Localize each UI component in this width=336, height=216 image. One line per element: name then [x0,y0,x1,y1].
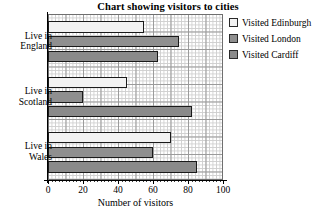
legend-swatch-icon [229,34,238,43]
x-axis-line [44,180,227,181]
legend-swatch-icon [229,50,238,59]
legend-item-label: Visited Cardiff [242,50,299,60]
bar [48,36,179,48]
bar [48,91,83,103]
chart-title: Chart showing visitors to cities [0,1,336,12]
chart-legend: Visited EdinburghVisited LondonVisited C… [229,15,335,63]
legend-item: Visited Edinburgh [229,15,335,30]
x-axis-tick-label: 20 [68,185,98,195]
bar [48,161,197,173]
legend-item: Visited Cardiff [229,47,335,62]
bar [48,147,153,159]
y-axis-category-label: Live in Scotland [0,86,52,107]
x-axis-tick-label: 40 [103,185,133,195]
legend-swatch-icon [229,18,238,27]
bar [48,51,158,63]
y-axis-category-label: Live in England [0,31,52,52]
x-axis-tick-label: 80 [173,185,203,195]
bar [48,21,144,33]
x-axis-tick-label: 60 [138,185,168,195]
legend-item-label: Visited Edinburgh [242,18,311,28]
x-axis-tick-label: 0 [33,185,63,195]
bar [48,132,171,144]
legend-item-label: Visited London [242,34,301,44]
y-axis-line [47,12,48,183]
x-axis-title: Number of visitors [48,197,223,208]
bar-chart: Chart showing visitors to cities Live in… [0,0,336,216]
bar [48,106,192,118]
y-axis-category-label: Live in Wales [0,141,52,162]
x-axis-tick-label: 100 [208,185,238,195]
bar [48,77,127,89]
legend-item: Visited London [229,31,335,46]
